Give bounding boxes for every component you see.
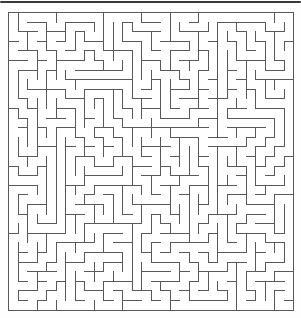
top-border-bar [0,1,301,3]
maze-puzzle [8,12,294,311]
maze-walls [9,13,294,311]
screen [0,0,301,318]
maze-svg [8,12,294,311]
